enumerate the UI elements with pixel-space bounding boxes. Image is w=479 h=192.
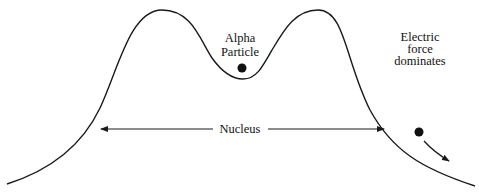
escaping-particle-dot bbox=[415, 128, 424, 137]
alpha-label-line2: Particle bbox=[221, 45, 260, 59]
alpha-particle-dot bbox=[238, 64, 247, 73]
diagram-canvas: Alpha Particle Electric force dominates … bbox=[0, 0, 479, 192]
nucleus-label: Nucleus bbox=[220, 122, 261, 136]
motion-arrow-icon bbox=[424, 141, 449, 161]
electric-label-line3: dominates bbox=[394, 54, 446, 68]
alpha-label-line1: Alpha bbox=[225, 31, 256, 45]
